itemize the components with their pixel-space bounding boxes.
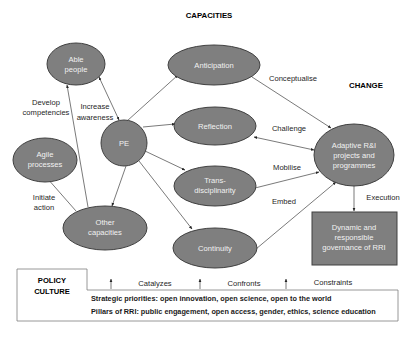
policy-title-1: POLICY [38,276,66,285]
increase-label-2: awareness [77,113,114,122]
mobilise-label: Mobilise [273,163,301,172]
svg-text:Trans-: Trans- [204,176,226,185]
rri-diagram: CAPACITIES CHANGE Develop competencies [0,0,413,338]
node-continuity: Continuity [173,228,257,268]
svg-text:people: people [65,65,88,74]
svg-text:responsible: responsible [335,233,374,242]
svg-text:Other: Other [96,218,115,227]
pillars-line: Pillars of RRI: public engagement, open … [91,307,376,316]
node-other-capacities: Other capacities [63,206,147,250]
svg-text:processes: processes [28,160,63,169]
policy-culture-panel: POLICY CULTURE Catalyzes Confronts Const… [17,269,398,321]
develop-label-2: competencies [23,108,70,117]
develop-label-1: Develop [32,98,60,107]
node-able-people: Able people [47,43,105,85]
svg-text:Adaptive R&I: Adaptive R&I [332,141,376,150]
catalyzes-label: Catalyzes [138,279,172,288]
increase-label-1: Increase [80,102,109,111]
initiate-label-2: action [34,203,54,212]
svg-text:projects and: projects and [333,151,374,160]
initiate-label-1: Initiate [33,193,55,202]
constraints-label: Constraints [314,278,353,287]
svg-text:Reflection: Reflection [198,122,232,131]
edge-anticipation-adaptive [252,77,331,128]
node-governance: Dynamic and responsible governance of RR… [312,212,397,265]
svg-text:Dynamic and: Dynamic and [332,223,376,232]
svg-text:governance of RRI: governance of RRI [322,243,385,252]
svg-text:Agile: Agile [37,150,54,159]
node-anticipation: Anticipation [168,45,260,85]
node-trans-disciplinarity: Trans- disciplinarity [174,166,256,206]
svg-text:Anticipation: Anticipation [194,61,233,70]
capacities-heading: CAPACITIES [186,11,233,20]
node-agile-processes: Agile processes [13,138,77,182]
confronts-label: Confronts [228,279,261,288]
challenge-label: Challenge [272,124,306,133]
svg-text:Able: Able [68,55,83,64]
execution-label: Execution [366,193,399,202]
svg-text:disciplinarity: disciplinarity [194,186,236,195]
change-heading: CHANGE [349,81,383,90]
edge-pe-other [112,166,126,206]
edge-reflection-adaptive [254,137,314,150]
svg-text:programmes: programmes [333,161,376,170]
conceptualise-label: Conceptualise [269,74,317,83]
node-adaptive-projects: Adaptive R&I projects and programmes [314,124,394,186]
edge-trans-adaptive [255,172,319,188]
edge-pe-trans [145,151,185,170]
svg-text:PE: PE [119,139,129,148]
svg-text:Continuity: Continuity [198,244,232,253]
node-pe: PE [101,120,147,166]
strategic-priorities-line: Strategic priorities: open innovation, o… [91,294,331,303]
node-reflection: Reflection [174,107,256,145]
policy-title-2: CULTURE [34,287,70,296]
embed-label: Embed [272,197,296,206]
svg-text:capacities: capacities [88,228,122,237]
edge-pe-reflection [143,124,175,127]
edge-pe-anticipation [127,75,178,121]
